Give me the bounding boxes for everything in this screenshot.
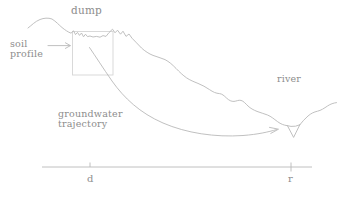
label-soil-profile-line2: profile [10, 49, 43, 59]
label-river: river [277, 74, 301, 84]
diagram-vector-layer [0, 0, 337, 199]
soil-profile-box [73, 32, 114, 76]
label-groundwater-line2: trajectory [58, 119, 123, 129]
axis-tick-label-r: r [288, 174, 293, 185]
label-dump: dump [71, 5, 102, 16]
axis-tick-label-d: d [87, 174, 94, 185]
soil-profile-pointer-arrow [48, 43, 70, 49]
diagram-canvas: dump soilprofile groundwatertrajectory r… [0, 0, 337, 199]
label-soil-profile: soilprofile [10, 39, 43, 60]
label-groundwater-trajectory: groundwatertrajectory [58, 109, 123, 130]
terrain-right-bank [300, 103, 337, 125]
